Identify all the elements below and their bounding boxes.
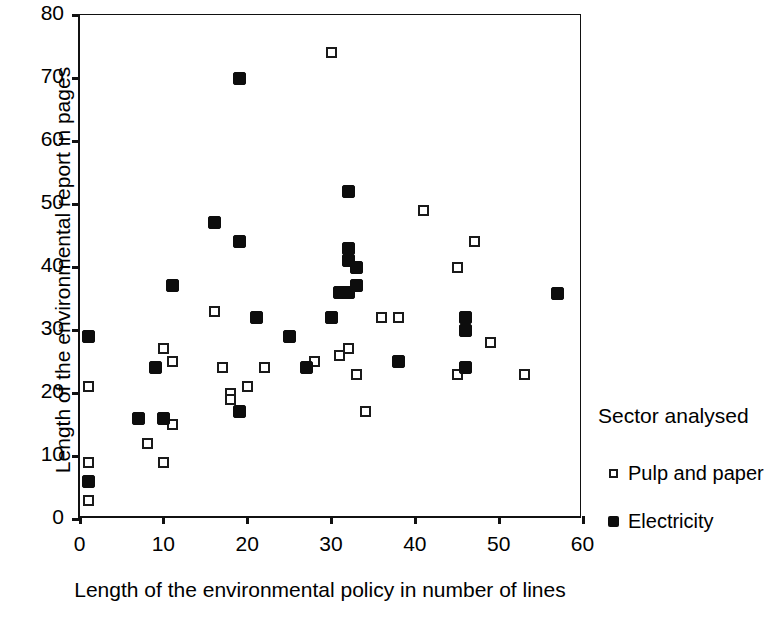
y-axis-tick-label: 60 [41,127,64,151]
data-point-pulp-and-paper [167,356,178,367]
y-axis-tick: 80 [72,14,80,17]
x-axis-tick-label: 40 [398,532,432,556]
data-point-pulp-and-paper [83,381,94,392]
data-point-pulp-and-paper [485,337,496,348]
data-point-pulp-and-paper [209,306,220,317]
data-point-electricity [208,216,221,229]
data-point-electricity [250,311,263,324]
legend-title: Sector analysed [598,404,784,428]
x-axis-tick: 10 [162,516,165,524]
data-point-electricity [459,311,472,324]
x-axis-tick-label: 30 [314,532,348,556]
y-axis-tick: 40 [72,266,80,269]
x-axis-tick: 40 [414,516,417,524]
data-point-pulp-and-paper [158,343,169,354]
data-point-pulp-and-paper [469,236,480,247]
x-axis-title: Length of the environmental policy in nu… [0,578,640,602]
legend: Sector analysed Pulp and paper Electrici… [598,404,784,552]
data-point-pulp-and-paper [376,312,387,323]
x-axis-tick-label: 20 [230,532,264,556]
y-axis-tick-label: 20 [41,379,64,403]
data-point-pulp-and-paper [418,205,429,216]
legend-item-electricity: Electricity [598,504,784,538]
y-axis-tick: 50 [72,203,80,206]
y-axis-tick-label: 0 [52,505,64,529]
x-axis-tick-label: 0 [63,532,97,556]
x-axis-tick-label: 10 [146,532,180,556]
data-point-electricity [157,412,170,425]
x-axis-tick: 20 [246,516,249,524]
plot-area: 01020304050607080 0102030405060 [78,14,581,518]
data-point-electricity [459,361,472,374]
x-axis-tick: 50 [498,516,501,524]
data-point-pulp-and-paper [158,457,169,468]
legend-item-label: Pulp and paper [628,462,764,485]
data-point-electricity [325,311,338,324]
y-axis-tick-label: 70 [41,64,64,88]
data-point-pulp-and-paper [351,369,362,380]
y-axis-tick-label: 30 [41,316,64,340]
data-point-pulp-and-paper [452,262,463,273]
data-point-pulp-and-paper [242,381,253,392]
y-axis-tick: 10 [72,455,80,458]
data-point-pulp-and-paper [83,457,94,468]
data-point-pulp-and-paper [225,394,236,405]
data-point-electricity [350,279,363,292]
data-point-electricity [459,324,472,337]
data-point-electricity [551,287,564,300]
data-point-pulp-and-paper [83,495,94,506]
y-axis-tick: 20 [72,392,80,395]
chart-canvas: Length of the environmental report in pa… [0,0,784,617]
data-point-electricity [149,361,162,374]
data-point-pulp-and-paper [326,47,337,58]
filled-square-icon [598,516,628,527]
y-axis-tick: 60 [72,140,80,143]
data-point-pulp-and-paper [343,343,354,354]
y-axis-tick-label: 80 [41,1,64,25]
data-point-pulp-and-paper [259,362,270,373]
y-axis-tick: 30 [72,329,80,332]
data-point-electricity [233,72,246,85]
data-point-pulp-and-paper [360,406,371,417]
data-point-pulp-and-paper [217,362,228,373]
data-point-electricity [350,261,363,274]
data-point-pulp-and-paper [393,312,404,323]
x-axis-tick-label: 50 [482,532,516,556]
data-point-electricity [82,330,95,343]
data-point-electricity [82,475,95,488]
x-axis-tick: 0 [79,516,82,524]
data-point-electricity [166,279,179,292]
data-point-electricity [392,355,405,368]
data-point-electricity [300,361,313,374]
x-axis-tick: 30 [330,516,333,524]
data-point-pulp-and-paper [142,438,153,449]
legend-item-pulp-and-paper: Pulp and paper [598,456,784,490]
x-axis-tick-label: 60 [566,532,600,556]
data-point-pulp-and-paper [519,369,530,380]
data-point-electricity [132,412,145,425]
x-axis-tick: 60 [582,516,585,524]
data-point-electricity [342,242,355,255]
y-axis-tick: 70 [72,77,80,80]
open-square-icon [598,469,628,478]
scatter-points-layer [80,15,580,516]
y-axis-tick-label: 50 [41,190,64,214]
y-axis-tick-label: 10 [41,442,64,466]
data-point-electricity [233,235,246,248]
legend-item-label: Electricity [628,510,714,533]
y-axis-tick-label: 40 [41,253,64,277]
data-point-electricity [283,330,296,343]
data-point-electricity [233,405,246,418]
data-point-electricity [342,185,355,198]
